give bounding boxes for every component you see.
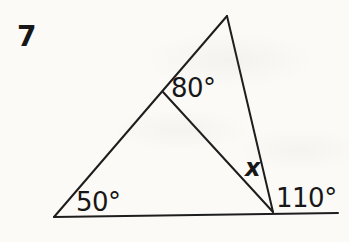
angle-label-50: 50° [76,189,121,215]
cevian-line [163,92,273,212]
problem-number: 7 [17,23,36,51]
angle-label-110: 110° [276,185,337,211]
angle-label-x: x [245,156,260,180]
scanned-textbook-page: 7 80° 50° x 110° [0,0,349,242]
angle-label-80: 80° [171,75,216,101]
triangle-right-side [227,16,273,212]
